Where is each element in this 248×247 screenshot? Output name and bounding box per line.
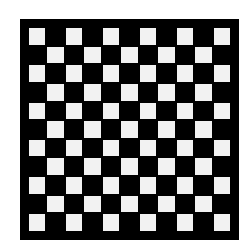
dark-square (194, 213, 212, 232)
dark-square (157, 139, 175, 158)
dark-square (194, 176, 212, 195)
dark-square (46, 139, 64, 158)
light-square (102, 139, 120, 158)
light-square (83, 46, 101, 65)
dark-square (46, 102, 64, 121)
dark-square (83, 176, 101, 195)
dark-square (157, 102, 175, 121)
light-square (139, 139, 157, 158)
light-square (65, 102, 83, 121)
dark-square (120, 64, 138, 83)
dark-square (28, 83, 46, 102)
light-square (83, 157, 101, 176)
light-square (102, 102, 120, 121)
light-square (46, 157, 64, 176)
light-square (194, 157, 212, 176)
light-square (83, 195, 101, 214)
light-square (102, 27, 120, 46)
dark-square (120, 213, 138, 232)
light-square (102, 213, 120, 232)
dark-square (28, 157, 46, 176)
dark-square (28, 46, 46, 65)
dark-square (120, 176, 138, 195)
light-square (120, 83, 138, 102)
light-square (176, 27, 194, 46)
dark-square (120, 139, 138, 158)
dark-square (157, 64, 175, 83)
dark-square (139, 195, 157, 214)
light-square (213, 64, 231, 83)
dark-square (213, 83, 231, 102)
light-square (65, 27, 83, 46)
dark-square (157, 213, 175, 232)
light-square (213, 102, 231, 121)
dark-square (102, 46, 120, 65)
dark-square (102, 83, 120, 102)
dark-square (65, 157, 83, 176)
light-square (157, 195, 175, 214)
dark-square (194, 102, 212, 121)
light-square (46, 120, 64, 139)
light-square (28, 27, 46, 46)
dark-square (83, 64, 101, 83)
dark-square (102, 195, 120, 214)
light-square (46, 83, 64, 102)
light-square (139, 213, 157, 232)
light-square (139, 176, 157, 195)
light-square (176, 64, 194, 83)
light-square (102, 176, 120, 195)
light-square (139, 64, 157, 83)
dark-square (83, 27, 101, 46)
light-square (176, 213, 194, 232)
dark-square (46, 64, 64, 83)
light-square (213, 176, 231, 195)
light-square (139, 102, 157, 121)
checkerboard (20, 19, 239, 240)
light-square (65, 64, 83, 83)
dark-square (139, 157, 157, 176)
dark-square (139, 46, 157, 65)
light-square (102, 64, 120, 83)
light-square (194, 46, 212, 65)
light-square (65, 213, 83, 232)
dark-square (194, 64, 212, 83)
dark-square (213, 157, 231, 176)
light-square (28, 64, 46, 83)
light-square (213, 139, 231, 158)
light-square (213, 213, 231, 232)
dark-square (157, 176, 175, 195)
dark-square (176, 195, 194, 214)
light-square (139, 27, 157, 46)
dark-square (139, 120, 157, 139)
light-square (120, 46, 138, 65)
dark-square (102, 157, 120, 176)
light-square (157, 83, 175, 102)
light-square (194, 83, 212, 102)
dark-square (83, 213, 101, 232)
dark-square (120, 27, 138, 46)
light-square (46, 195, 64, 214)
dark-square (28, 195, 46, 214)
light-square (176, 102, 194, 121)
light-square (28, 139, 46, 158)
dark-square (65, 120, 83, 139)
dark-square (194, 139, 212, 158)
light-square (83, 120, 101, 139)
dark-square (83, 139, 101, 158)
dark-square (213, 46, 231, 65)
dark-square (176, 157, 194, 176)
dark-square (28, 120, 46, 139)
dark-square (176, 46, 194, 65)
dark-square (46, 176, 64, 195)
dark-square (83, 102, 101, 121)
light-square (46, 46, 64, 65)
dark-square (120, 102, 138, 121)
dark-square (194, 27, 212, 46)
light-square (120, 120, 138, 139)
light-square (65, 176, 83, 195)
dark-square (46, 27, 64, 46)
dark-square (139, 83, 157, 102)
dark-square (65, 46, 83, 65)
light-square (176, 176, 194, 195)
dark-square (213, 195, 231, 214)
